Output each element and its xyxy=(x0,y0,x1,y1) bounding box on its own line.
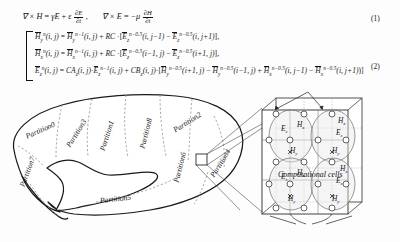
hx-sub-4: x xyxy=(345,169,347,174)
ez-t4-args: (i, j−1) xyxy=(285,66,307,75)
hy-t1-args: (i, j) xyxy=(84,32,97,41)
hx-t1-args: (i, j) xyxy=(84,49,97,58)
maxwell-neg-mu: −μ xyxy=(131,12,141,21)
left-brace xyxy=(26,31,33,81)
hx-t3-args: (i+1, j) xyxy=(192,49,214,58)
maxwell-plus-1: + xyxy=(62,12,67,21)
ez-t2-sup: n−0.5 xyxy=(169,65,182,71)
hy-lhs-sub: y xyxy=(41,37,43,43)
maxwell-gammaE: γE xyxy=(51,12,59,21)
maxwell-dEdt-den: ∂t xyxy=(74,18,83,25)
ez-t1-args: (i, j) xyxy=(109,66,122,75)
equation-number-1: (1) xyxy=(371,14,380,23)
fdtd-equation-system: Hyn(i, j) = Hyn−1(i, j) + RC ·[Ezn−0.5(i… xyxy=(26,30,356,80)
mesh-field-hy-4: Hy xyxy=(332,194,340,204)
maxwell-lhs-2: ∇ × E xyxy=(102,12,122,21)
ez-equals: = xyxy=(60,66,64,75)
maxwell-lhs-1: ∇ × H xyxy=(22,12,43,21)
hx-sub-2: x xyxy=(343,121,345,126)
ez-sub-1: z xyxy=(286,129,288,134)
hx-t1-sup: n−1 xyxy=(75,48,84,54)
ez-minus2: − xyxy=(309,66,313,75)
computational-cells-caption: Computational cells xyxy=(278,170,343,179)
hy-t2-args: (i, j−1) xyxy=(142,32,164,41)
hx-plus: + xyxy=(99,49,103,58)
hy-tail: ], xyxy=(215,32,219,41)
hy-t1-sup: n−1 xyxy=(75,31,84,37)
hy-sub-1: y xyxy=(295,151,297,156)
mesh-caption-arrows xyxy=(270,214,352,224)
mesh-field-ez-2: Ez xyxy=(336,128,342,138)
hx-sub-3: x xyxy=(302,173,304,178)
hx-t3-sup: n−0.5 xyxy=(179,48,192,54)
diagram-block: Partition0 Partition3 Partition1 Partiti… xyxy=(0,84,400,242)
fdtd-row-hx: Hxn(i, j) = Hxn−1(i, j) + RC ·[Ezn−0.5(i… xyxy=(35,49,219,58)
ez-t4-sub: x xyxy=(269,71,271,77)
hy-t3-args: (i, j+1) xyxy=(192,32,214,41)
hx-tail: ], xyxy=(215,49,219,58)
hy-t1-sub: y xyxy=(73,37,75,43)
figure-root: ∇ × H = γE + ε ∂E ∂t , ∇ × E = −μ ∂H ∂t … xyxy=(0,0,400,242)
hy-lhs-args: (i, j) xyxy=(46,32,59,41)
ez-t2-sub: y xyxy=(166,71,168,77)
ez-t3-sup: n−0.5 xyxy=(220,65,233,71)
maxwell-dHdt: ∂H ∂t xyxy=(143,10,153,25)
ez-t2-args: (i+1, j) xyxy=(182,66,204,75)
mesh-field-ez-3: Ez xyxy=(281,172,287,182)
ez-sub-4: z xyxy=(341,181,343,186)
mesh-field-hx-4: Hx xyxy=(340,164,348,174)
maxwell-curl-equations: ∇ × H = γE + ε ∂E ∂t , ∇ × E = −μ ∂H ∂t xyxy=(22,10,153,25)
hx-dot: · xyxy=(117,49,120,58)
ez-ca-args: (i, j) xyxy=(78,66,91,75)
hy-coef: RC xyxy=(105,32,115,41)
ez-cb: CB xyxy=(131,66,141,75)
ez-lhs-sub: z xyxy=(40,71,42,77)
ez-dot: · xyxy=(156,66,159,75)
ez-plus2: + xyxy=(258,66,262,75)
zoom-region-square[interactable] xyxy=(196,154,207,165)
hx-t1-sub: x xyxy=(73,54,75,60)
equation-number-2: (2) xyxy=(371,62,380,71)
hy-sub-2: y xyxy=(337,151,339,156)
ez-t4-sup: n−0.5 xyxy=(272,65,285,71)
hy-t2-sup: n−0.5 xyxy=(129,31,142,37)
hy-dot: · xyxy=(117,32,120,41)
ez-cb-args: (i, j) xyxy=(143,66,156,75)
hx-minus: − xyxy=(166,49,170,58)
maxwell-dHdt-den: ∂t xyxy=(143,18,153,25)
ez-minus1: − xyxy=(206,66,210,75)
hx-equals: = xyxy=(61,49,65,58)
mesh-field-hy-2: Hy xyxy=(332,146,340,156)
mesh-field-ez-1: Ez xyxy=(281,124,287,134)
hy-sub-3: y xyxy=(293,199,295,204)
hx-t2-args: (i−1, j) xyxy=(142,49,164,58)
ez-t5-sub: x xyxy=(321,71,323,77)
ez-t1-sub: z xyxy=(98,71,100,77)
maxwell-eq-1: = xyxy=(45,12,50,21)
maxwell-eq-2: = xyxy=(124,12,129,21)
mesh-field-hx-3: Hx xyxy=(297,168,305,178)
fdtd-row-hy: Hyn(i, j) = Hyn−1(i, j) + RC ·[Ezn−0.5(i… xyxy=(35,32,219,41)
hx-lhs-sub: x xyxy=(41,54,43,60)
hy-minus: − xyxy=(166,32,170,41)
hx-sub-1: x xyxy=(302,125,304,130)
ez-t5-args: (i, j+1) xyxy=(336,66,358,75)
hy-t2-sub: z xyxy=(127,37,129,43)
hx-t2-sup: n−0.5 xyxy=(129,48,142,54)
hy-equals: = xyxy=(61,32,65,41)
equations-block: ∇ × H = γE + ε ∂E ∂t , ∇ × E = −μ ∂H ∂t … xyxy=(0,0,400,84)
mesh-field-hx-2: Hx xyxy=(338,116,346,126)
hx-lhs-args: (i, j) xyxy=(46,49,59,58)
hy-sub-4: y xyxy=(337,199,339,204)
maxwell-epsilon: ε xyxy=(68,12,71,21)
ez-ca: CA xyxy=(66,66,76,75)
ez-plus: + xyxy=(125,66,129,75)
ez-t5-sup: n−0.5 xyxy=(323,65,336,71)
fdtd-row-ez: Ezn(i, j) = CAz(i, j)·Ezn−1(i, j) + CBz(… xyxy=(35,66,364,75)
maxwell-comma: , xyxy=(86,12,88,21)
hx-t3-sub: z xyxy=(177,54,179,60)
ez-tail: )] xyxy=(359,66,364,75)
mesh-field-ez-4: Ez xyxy=(336,176,342,186)
ez-sub-3: z xyxy=(286,177,288,182)
mesh-field-hy-3: Hy xyxy=(288,194,296,204)
